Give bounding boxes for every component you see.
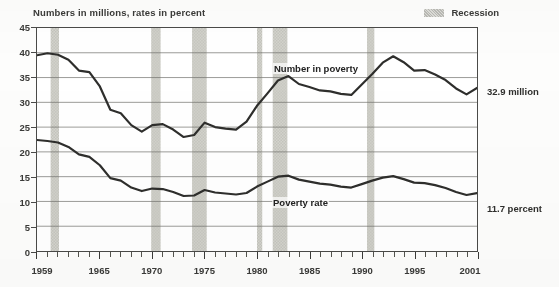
y-axis-tick-label: 20 — [19, 147, 30, 158]
x-axis-tick — [141, 252, 142, 257]
x-axis-tick — [110, 252, 111, 257]
x-axis-tick — [215, 252, 216, 257]
x-axis-tick — [173, 252, 174, 257]
x-axis-tick — [131, 252, 132, 257]
x-axis-tick — [236, 252, 237, 257]
x-axis-tick — [436, 252, 437, 257]
recession-swatch-icon — [424, 9, 444, 17]
x-axis-tick-label: 1980 — [246, 265, 267, 276]
plot-area — [36, 27, 478, 252]
recession-bands — [51, 28, 477, 251]
x-axis-tick — [394, 252, 395, 257]
recession-band — [192, 28, 207, 251]
y-axis-tick-label: 0 — [25, 247, 30, 258]
x-axis-tick — [373, 252, 374, 257]
x-axis-tick — [120, 252, 121, 257]
x-axis-tick — [57, 252, 58, 257]
y-axis-tick-label: 40 — [19, 47, 30, 58]
x-axis-tick — [425, 252, 426, 257]
series-label-poverty-rate: Poverty rate — [272, 197, 329, 208]
callout-poverty-rate: 11.7 percent — [487, 203, 542, 214]
x-axis-tick — [341, 252, 342, 257]
x-axis-tick — [99, 252, 100, 259]
x-axis-tick — [68, 252, 69, 257]
x-axis-tick-label: 2001 — [459, 265, 480, 276]
x-axis-tick — [467, 252, 468, 257]
x-axis-tick — [404, 252, 405, 257]
x-axis-tick — [152, 252, 153, 259]
x-axis-tick — [331, 252, 332, 257]
x-axis-tick-label: 1959 — [31, 265, 52, 276]
x-axis-tick — [310, 252, 311, 259]
callout-number-in-poverty: 32.9 million — [487, 86, 539, 97]
x-axis-tick — [268, 252, 269, 257]
x-axis-tick — [457, 252, 458, 257]
x-axis-tick — [362, 252, 363, 259]
series-label-number-in-poverty: Number in poverty — [273, 63, 359, 74]
y-axis-tick-label: 15 — [19, 172, 30, 183]
x-axis-tick-label: 1995 — [404, 265, 425, 276]
recession-band — [257, 28, 262, 251]
x-axis-tick-label: 1985 — [299, 265, 320, 276]
x-axis: 195919651970197519801985199019952001 — [36, 252, 478, 286]
recession-band — [367, 28, 374, 251]
y-axis-tick-label: 35 — [19, 72, 30, 83]
x-axis-tick — [289, 252, 290, 257]
x-axis-tick-label: 1970 — [141, 265, 162, 276]
x-axis-tick — [320, 252, 321, 257]
x-axis-tick — [415, 252, 416, 259]
recession-band — [51, 28, 59, 251]
x-axis-tick — [478, 252, 479, 259]
recession-band — [273, 28, 288, 251]
x-axis-tick-label: 1990 — [352, 265, 373, 276]
x-axis-tick — [36, 252, 37, 259]
recession-band — [151, 28, 160, 251]
x-axis-tick — [225, 252, 226, 257]
x-axis-tick — [446, 252, 447, 257]
x-axis-tick — [383, 252, 384, 257]
poverty-chart-figure: Numbers in millions, rates in percent Re… — [0, 0, 559, 287]
plot-svg — [37, 28, 477, 251]
x-axis-tick — [183, 252, 184, 257]
y-axis-tick-label: 5 — [25, 222, 30, 233]
x-axis-tick — [246, 252, 247, 257]
x-axis-tick-label: 1975 — [194, 265, 215, 276]
x-axis-tick — [78, 252, 79, 257]
x-axis-tick-label: 1965 — [89, 265, 110, 276]
x-axis-tick — [162, 252, 163, 257]
x-axis-tick — [278, 252, 279, 257]
x-axis-tick — [257, 252, 258, 259]
x-axis-tick — [194, 252, 195, 257]
x-axis-tick — [204, 252, 205, 259]
x-axis-tick — [89, 252, 90, 257]
axis-units-note: Numbers in millions, rates in percent — [33, 7, 205, 18]
y-axis-tick-label: 10 — [19, 197, 30, 208]
chart-legend: Recession — [424, 7, 499, 18]
x-axis-tick — [299, 252, 300, 257]
x-axis-tick — [352, 252, 353, 257]
y-axis-tick-label: 45 — [19, 22, 30, 33]
y-axis-tick-label: 25 — [19, 122, 30, 133]
x-axis-tick — [47, 252, 48, 257]
legend-label-recession: Recession — [451, 7, 499, 18]
y-axis: 051015202530354045 — [0, 27, 32, 252]
y-axis-tick-label: 30 — [19, 97, 30, 108]
